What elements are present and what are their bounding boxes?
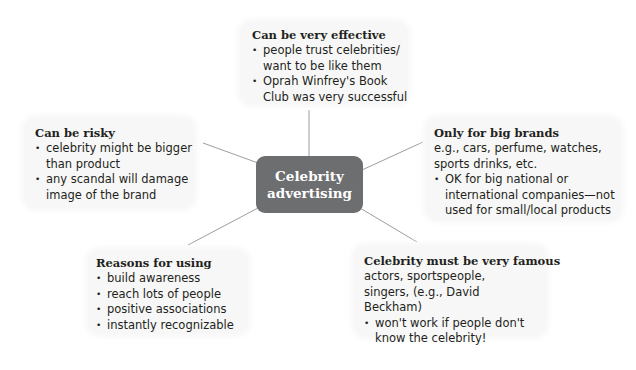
bullet-item: people trust celebrities/ want to be lik…: [252, 43, 408, 74]
bullet-item: won't work if people don't know the cele…: [364, 316, 539, 347]
connector-left: [203, 143, 258, 163]
connector-bottom-right: [360, 208, 417, 242]
node-title: Celebrity must be very famous: [364, 254, 546, 269]
central-topic-line2: advertising: [267, 185, 352, 202]
node-celebrity-must-be-very-famous: Celebrity must be very famous actors, sp…: [354, 246, 546, 336]
bullet-item: celebrity might be bigger than product: [35, 141, 194, 172]
node-title: Can be risky: [35, 126, 194, 141]
central-topic: Celebrity advertising: [256, 156, 363, 213]
central-topic-line1: Celebrity: [275, 168, 344, 185]
node-title: Reasons for using: [96, 256, 248, 271]
bullet-item: Oprah Winfrey's Book Club was very succe…: [252, 74, 408, 105]
node-title: Can be very effective: [252, 28, 408, 43]
node-can-be-risky: Can be risky celebrity might be bigger t…: [24, 118, 194, 208]
bullet-item: any scandal will damage image of the bra…: [35, 172, 194, 203]
connector-bottom-left: [188, 208, 258, 245]
bullet-item: OK for big national or international com…: [434, 172, 621, 219]
node-reasons-for-using: Reasons for using build awareness reach …: [88, 250, 248, 334]
bullet-item: instantly recognizable: [96, 318, 248, 334]
bullet-item: reach lots of people: [96, 287, 248, 303]
bullet-item: build awareness: [96, 271, 248, 287]
node-only-for-big-brands: Only for big brands e.g., cars, perfume,…: [426, 118, 621, 220]
node-can-be-very-effective: Can be very effective people trust celeb…: [240, 22, 408, 104]
node-intro: actors, sportspeople, singers, (e.g., Da…: [364, 269, 529, 316]
node-title: Only for big brands: [434, 126, 621, 141]
node-intro: e.g., cars, perfume, watches, sports dri…: [434, 141, 621, 172]
bullet-item: positive associations: [96, 302, 248, 318]
connector-right: [362, 142, 423, 170]
